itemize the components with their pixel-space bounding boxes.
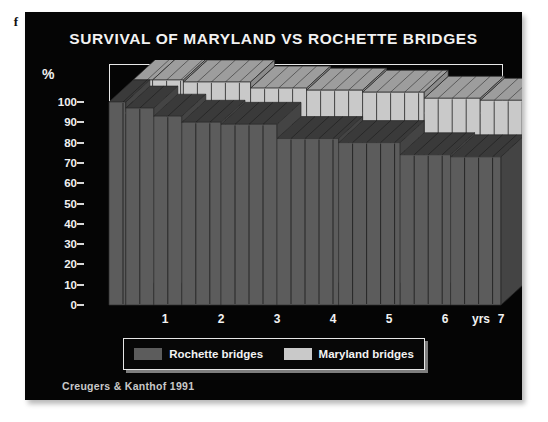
x-axis-tick-3: 3 <box>274 312 281 326</box>
surface-face <box>451 157 501 305</box>
x-axis-tick-4: 4 <box>330 312 337 326</box>
surface-svg <box>25 60 522 310</box>
x-axis: yrs 1234567 <box>25 312 522 334</box>
y-axis-tickmark-40 <box>77 223 84 225</box>
y-axis-tickmark-70 <box>77 162 84 164</box>
y-axis-tickmark-60 <box>77 182 84 184</box>
y-axis-tickmark-0 <box>77 304 84 306</box>
legend-label-rochette: Rochette bridges <box>169 348 263 360</box>
x-axis-tick-7: 7 <box>498 312 505 326</box>
x-axis-tick-6: 6 <box>442 312 449 326</box>
legend-item-maryland: Maryland bridges <box>284 348 414 360</box>
y-axis-tickmark-10 <box>77 284 84 286</box>
x-axis-tick-1: 1 <box>162 312 169 326</box>
chart-credit: Creugers & Kanthof 1991 <box>62 380 194 392</box>
y-axis-tickmark-80 <box>77 142 84 144</box>
surface-face <box>339 143 401 305</box>
y-axis-tickmark-30 <box>77 243 84 245</box>
x-axis-tick-5: 5 <box>386 312 393 326</box>
legend-swatch-maryland <box>284 348 312 360</box>
surface-face <box>501 135 522 305</box>
x-axis-tick-2: 2 <box>218 312 225 326</box>
chart-panel: SURVIVAL OF MARYLAND VS ROCHETTE BRIDGES… <box>25 12 522 400</box>
legend-label-maryland: Maryland bridges <box>319 348 414 360</box>
legend-item-rochette: Rochette bridges <box>134 348 263 360</box>
chart-legend: Rochette bridges Maryland bridges <box>123 338 425 370</box>
chart-title: SURVIVAL OF MARYLAND VS ROCHETTE BRIDGES <box>25 30 522 48</box>
screenshot-root: f SURVIVAL OF MARYLAND VS ROCHETTE BRIDG… <box>0 0 548 422</box>
y-axis-tickmark-20 <box>77 263 84 265</box>
surface-face <box>182 122 221 305</box>
surface-face <box>277 139 339 305</box>
plot-area: % 0102030405060708090100 <box>25 60 522 310</box>
stepped-surface-3d <box>25 60 522 310</box>
y-axis-tickmark-100 <box>77 101 84 103</box>
surface-face <box>400 155 450 305</box>
y-axis-tickmark-50 <box>77 203 84 205</box>
edge-text-fragment: f <box>2 14 18 30</box>
x-axis-unit-label: yrs <box>472 312 490 326</box>
y-axis-tickmark-90 <box>77 121 84 123</box>
legend-swatch-rochette <box>134 348 162 360</box>
